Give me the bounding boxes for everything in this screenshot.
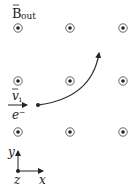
field-out-icon	[66, 24, 74, 32]
field-subscript: out	[21, 11, 36, 21]
trajectory-arc	[38, 53, 99, 105]
field-out-icon	[66, 77, 74, 85]
x-axis-label: x	[39, 173, 46, 187]
field-out-icon	[119, 128, 127, 136]
field-out-icon	[119, 24, 127, 32]
field-out-icon	[119, 77, 127, 85]
field-label: B out	[12, 5, 36, 21]
field-out-icon	[14, 77, 22, 85]
field-out-icon	[14, 128, 22, 136]
velocity-label: v i	[12, 89, 22, 104]
velocity-subscript: i	[19, 95, 22, 104]
z-axis-label: z	[13, 173, 21, 187]
velocity-symbol: v	[12, 89, 19, 103]
field-dots	[14, 24, 127, 136]
electron-label: e⁻	[12, 108, 25, 122]
coordinate-axes: y z x	[7, 145, 46, 187]
y-axis-label: y	[7, 145, 15, 159]
field-out-icon	[66, 128, 74, 136]
magnetic-field-diagram: B out v i e⁻ y z x	[0, 0, 138, 193]
field-out-icon	[14, 24, 22, 32]
